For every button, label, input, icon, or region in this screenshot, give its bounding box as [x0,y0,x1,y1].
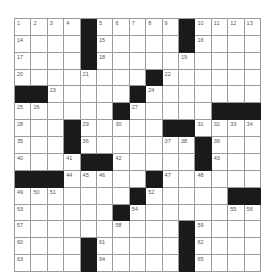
grid-cell[interactable] [64,188,80,205]
grid-cell[interactable] [179,188,195,205]
grid-cell[interactable] [245,53,261,70]
grid-cell[interactable]: 5 [97,19,113,36]
grid-cell[interactable] [179,154,195,171]
grid-cell[interactable]: 16 [195,36,211,53]
grid-cell[interactable] [31,205,47,222]
grid-cell[interactable] [113,53,129,70]
grid-cell[interactable] [31,221,47,238]
grid-cell[interactable]: 58 [113,221,129,238]
grid-cell[interactable] [179,171,195,188]
grid-cell[interactable] [195,86,211,103]
grid-cell[interactable]: 29 [81,120,97,137]
grid-cell[interactable] [212,53,228,70]
grid-cell[interactable]: 32 [212,120,228,137]
grid-cell[interactable] [81,86,97,103]
grid-cell[interactable]: 13 [245,19,261,36]
grid-cell[interactable] [163,154,179,171]
grid-cell[interactable] [113,171,129,188]
grid-cell[interactable]: 55 [228,205,244,222]
grid-cell[interactable]: 36 [81,137,97,154]
grid-cell[interactable]: 12 [228,19,244,36]
grid-cell[interactable] [130,137,146,154]
grid-cell[interactable]: 64 [97,255,113,272]
grid-cell[interactable] [97,188,113,205]
grid-cell[interactable] [48,120,64,137]
grid-cell[interactable] [31,137,47,154]
grid-cell[interactable]: 52 [146,188,162,205]
grid-cell[interactable] [212,188,228,205]
grid-cell[interactable] [228,137,244,154]
grid-cell[interactable]: 14 [15,36,31,53]
grid-cell[interactable] [212,255,228,272]
grid-cell[interactable] [163,221,179,238]
grid-cell[interactable]: 15 [97,36,113,53]
grid-cell[interactable]: 20 [15,70,31,87]
grid-cell[interactable] [146,154,162,171]
grid-cell[interactable] [113,238,129,255]
grid-cell[interactable]: 53 [15,205,31,222]
grid-cell[interactable] [97,137,113,154]
grid-cell[interactable] [81,205,97,222]
grid-cell[interactable] [228,171,244,188]
grid-cell[interactable] [64,238,80,255]
grid-cell[interactable] [163,188,179,205]
grid-cell[interactable] [48,103,64,120]
grid-cell[interactable] [48,205,64,222]
grid-cell[interactable]: 46 [97,171,113,188]
grid-cell[interactable] [245,221,261,238]
grid-cell[interactable]: 27 [130,103,146,120]
grid-cell[interactable]: 49 [15,188,31,205]
grid-cell[interactable] [146,36,162,53]
grid-cell[interactable] [81,221,97,238]
grid-cell[interactable]: 19 [179,53,195,70]
grid-cell[interactable] [245,171,261,188]
grid-cell[interactable]: 25 [15,103,31,120]
grid-cell[interactable] [31,238,47,255]
grid-cell[interactable]: 17 [15,53,31,70]
grid-cell[interactable] [146,238,162,255]
grid-cell[interactable] [146,53,162,70]
grid-cell[interactable] [113,188,129,205]
grid-cell[interactable] [31,70,47,87]
grid-cell[interactable] [130,238,146,255]
grid-cell[interactable] [245,238,261,255]
grid-cell[interactable] [31,154,47,171]
grid-cell[interactable] [113,36,129,53]
grid-cell[interactable]: 37 [163,137,179,154]
grid-cell[interactable] [64,255,80,272]
grid-cell[interactable] [31,53,47,70]
grid-cell[interactable]: 10 [195,19,211,36]
grid-cell[interactable] [245,70,261,87]
grid-cell[interactable] [48,238,64,255]
grid-cell[interactable] [48,137,64,154]
grid-cell[interactable] [97,205,113,222]
grid-cell[interactable]: 60 [15,238,31,255]
grid-cell[interactable] [228,221,244,238]
grid-cell[interactable] [130,255,146,272]
grid-cell[interactable] [97,103,113,120]
grid-cell[interactable]: 8 [146,19,162,36]
grid-cell[interactable] [212,205,228,222]
grid-cell[interactable] [64,70,80,87]
grid-cell[interactable] [163,53,179,70]
grid-cell[interactable]: 4 [64,19,80,36]
grid-cell[interactable]: 9 [163,19,179,36]
grid-cell[interactable]: 21 [81,70,97,87]
grid-cell[interactable] [48,255,64,272]
grid-cell[interactable] [130,221,146,238]
grid-cell[interactable]: 47 [163,171,179,188]
grid-cell[interactable] [64,103,80,120]
grid-cell[interactable] [146,205,162,222]
grid-cell[interactable] [31,120,47,137]
grid-cell[interactable] [245,86,261,103]
grid-cell[interactable] [212,86,228,103]
grid-cell[interactable] [163,238,179,255]
grid-cell[interactable] [163,255,179,272]
grid-cell[interactable] [163,205,179,222]
grid-cell[interactable] [130,171,146,188]
grid-cell[interactable] [130,36,146,53]
grid-cell[interactable]: 18 [97,53,113,70]
grid-cell[interactable]: 48 [195,171,211,188]
grid-cell[interactable]: 51 [48,188,64,205]
grid-cell[interactable] [97,70,113,87]
